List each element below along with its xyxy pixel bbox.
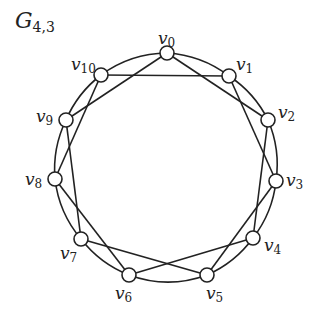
vertex-v3 <box>269 174 283 188</box>
vertex-v4 <box>246 231 260 245</box>
vertex-v7 <box>74 232 88 246</box>
label-v5: v5 <box>206 285 223 304</box>
edge-v4-v6 <box>129 238 253 275</box>
edge-v2-v4 <box>253 120 268 238</box>
vertices <box>48 46 283 282</box>
vertex-v5 <box>200 268 214 282</box>
vertex-v1 <box>222 69 236 83</box>
edge-v3-v5 <box>207 181 276 275</box>
label-v0: v0 <box>158 30 175 49</box>
label-v2: v2 <box>278 104 295 123</box>
vertex-v10 <box>94 68 108 82</box>
edge-v1-v3 <box>229 76 276 181</box>
label-v7: v7 <box>60 245 77 264</box>
edge-v5-v6 <box>129 275 207 282</box>
vertex-v8 <box>48 172 62 186</box>
vertex-v6 <box>122 268 136 282</box>
label-v3: v3 <box>286 172 303 191</box>
outer-cycle-edges <box>55 53 278 282</box>
edge-v0-v1 <box>167 53 229 76</box>
label-v1: v1 <box>236 56 253 75</box>
label-v4: v4 <box>264 237 281 256</box>
label-v10: v10 <box>71 56 96 75</box>
label-v6: v6 <box>115 285 132 304</box>
edge-v10-v0 <box>101 53 167 75</box>
edge-v10-v1 <box>101 75 229 76</box>
vertex-v9 <box>59 113 73 127</box>
label-v8: v8 <box>25 171 42 190</box>
vertex-v2 <box>261 113 275 127</box>
edge-v8-v10 <box>55 75 101 179</box>
edge-v8-v9 <box>55 120 66 179</box>
label-v9: v9 <box>36 108 53 127</box>
